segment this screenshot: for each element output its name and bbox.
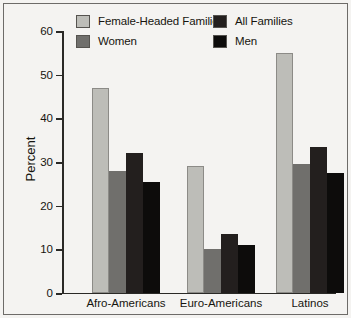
legend-label-all-families: All Families: [235, 15, 293, 27]
y-tick-mark: [56, 206, 62, 208]
y-tick-mark: [56, 293, 62, 295]
bar-women[interactable]: [293, 164, 310, 293]
bars-container: [276, 31, 344, 293]
y-tick-label: 60: [40, 25, 53, 37]
y-axis-label: Percent: [23, 137, 38, 182]
y-tick-label: 50: [40, 69, 53, 81]
y-tick-label: 40: [40, 112, 53, 124]
bar-chart-figure: Female-Headed Families All Families Wome…: [0, 0, 351, 318]
legend-swatch-female-headed-families: [76, 15, 90, 28]
x-category-label: Euro-Americans: [180, 297, 262, 309]
bar-women[interactable]: [109, 171, 126, 293]
bars-container: [187, 31, 255, 293]
legend-label-female-headed-families: Female-Headed Families: [98, 15, 224, 27]
bar-men[interactable]: [238, 245, 255, 293]
bar-all-families[interactable]: [126, 153, 143, 293]
bars-container: [92, 31, 160, 293]
y-tick-mark: [56, 249, 62, 251]
y-tick-mark: [56, 118, 62, 120]
y-tick-mark: [56, 31, 62, 33]
y-tick-label: 0: [47, 287, 53, 299]
bar-men[interactable]: [143, 182, 160, 293]
bar-female-headed-families[interactable]: [92, 88, 109, 293]
legend-item-all-families: All Families: [213, 11, 338, 31]
y-tick-mark: [56, 75, 62, 77]
y-tick-label: 20: [40, 200, 53, 212]
bar-female-headed-families[interactable]: [187, 166, 204, 293]
bar-women[interactable]: [204, 249, 221, 293]
y-tick-label: 30: [40, 156, 53, 168]
x-category-label: Latinos: [291, 297, 328, 309]
bar-all-families[interactable]: [310, 147, 327, 293]
bar-female-headed-families[interactable]: [276, 53, 293, 293]
bar-men[interactable]: [327, 173, 344, 293]
y-axis-line: [62, 31, 64, 293]
bar-all-families[interactable]: [221, 234, 238, 293]
plot-area: 0102030405060 Afro-AmericansEuro-America…: [62, 31, 336, 293]
y-tick-label: 10: [40, 243, 53, 255]
legend-swatch-all-families: [213, 15, 227, 28]
y-tick-mark: [56, 162, 62, 164]
x-category-label: Afro-Americans: [86, 297, 165, 309]
legend-item-female-headed-families: Female-Headed Families: [76, 11, 213, 31]
